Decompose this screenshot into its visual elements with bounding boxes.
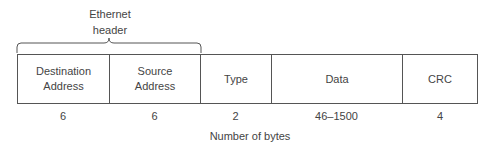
field-label: Address <box>36 79 91 94</box>
field-label: Type <box>224 72 248 87</box>
field-label: CRC <box>428 72 452 87</box>
header-brace-icon <box>0 0 492 60</box>
bytes-data: 46–1500 <box>271 110 402 122</box>
frame-fields: Destination Address Source Address Type … <box>17 54 478 104</box>
bytes-destination-address: 6 <box>17 110 109 122</box>
field-label: Data <box>325 72 348 87</box>
bytes-type: 2 <box>200 110 271 122</box>
field-source-address: Source Address <box>110 55 201 103</box>
field-crc: CRC <box>403 55 477 103</box>
field-label: Source <box>135 64 175 79</box>
bytes-crc: 4 <box>402 110 478 122</box>
field-destination-address: Destination Address <box>18 55 110 103</box>
field-label: Address <box>135 79 175 94</box>
field-label: Destination <box>36 64 91 79</box>
field-data: Data <box>272 55 403 103</box>
bytes-caption: Number of bytes <box>190 130 310 142</box>
field-type: Type <box>201 55 272 103</box>
bytes-source-address: 6 <box>109 110 200 122</box>
